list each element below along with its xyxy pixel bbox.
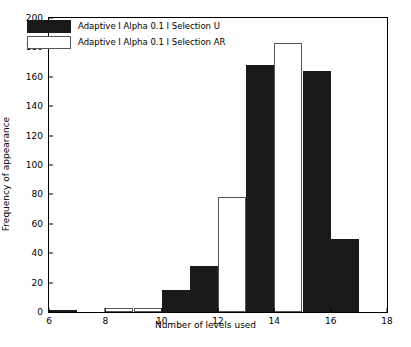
y-axis-tick-label: 20 (32, 278, 49, 287)
y-axis-label: Frequency of appearance (1, 99, 11, 249)
legend-label-selection-ar: Adaptive I Alpha 0.1 I Selection AR (78, 38, 225, 47)
plot-area: 020406080100120140160180200681012141618 (48, 17, 388, 313)
legend-label-selection-u: Adaptive I Alpha 0.1 I Selection U (78, 22, 220, 31)
y-axis-tick-mark (49, 282, 53, 283)
x-axis-tick-mark (161, 308, 162, 312)
histogram-bar (331, 239, 359, 313)
x-axis-tick-mark (274, 308, 275, 312)
histogram-figure: 020406080100120140160180200681012141618 … (0, 0, 411, 347)
y-axis-tick-mark (49, 165, 53, 166)
y-axis-tick-label: 40 (32, 249, 49, 258)
x-axis-tick-mark (387, 308, 388, 312)
histogram-bar (162, 290, 190, 312)
y-axis-tick-mark (49, 18, 53, 19)
y-axis-tick-label: 120 (26, 131, 49, 140)
histogram-bar (105, 308, 133, 312)
y-axis-tick-mark (49, 135, 53, 136)
y-axis-tick-label: 140 (26, 102, 49, 111)
histogram-bar (218, 197, 246, 312)
x-axis-tick-mark (105, 308, 106, 312)
bars-layer (49, 18, 387, 312)
chart-legend: Adaptive I Alpha 0.1 I Selection U Adapt… (27, 20, 225, 49)
histogram-bar (274, 43, 302, 312)
histogram-bar (303, 71, 331, 312)
x-axis-tick-mark (49, 308, 50, 312)
y-axis-tick-mark (49, 106, 53, 107)
y-axis-tick-mark (49, 76, 53, 77)
x-axis-tick-mark (218, 308, 219, 312)
y-axis-tick-mark (49, 253, 53, 254)
y-axis-tick-label: 60 (32, 219, 49, 228)
legend-item: Adaptive I Alpha 0.1 I Selection U (27, 20, 225, 33)
y-axis-tick-label: 80 (32, 190, 49, 199)
legend-swatch-selection-ar (27, 36, 71, 49)
y-axis-tick-mark (49, 194, 53, 195)
histogram-bar (246, 65, 274, 312)
x-axis-tick-mark (330, 308, 331, 312)
x-axis-label: Number of levels used (0, 320, 411, 330)
legend-item: Adaptive I Alpha 0.1 I Selection AR (27, 36, 225, 49)
y-axis-tick-label: 100 (26, 161, 49, 170)
histogram-bar (190, 266, 218, 312)
histogram-bar (49, 310, 77, 312)
y-axis-tick-label: 160 (26, 72, 49, 81)
legend-swatch-selection-u (27, 20, 71, 33)
y-axis-tick-mark (49, 223, 53, 224)
